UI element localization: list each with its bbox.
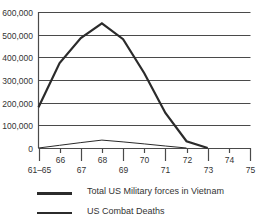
x-tick-label: 70 — [140, 155, 150, 165]
legend-label: US Combat Deaths — [87, 206, 165, 216]
y-tick-label: 600,000 — [2, 8, 33, 18]
legend-item-combat-deaths: US Combat Deaths — [37, 206, 256, 220]
thin-line-swatch-icon — [37, 212, 72, 214]
y-tick-label: 100,000 — [2, 121, 33, 131]
x-tick-label: 74 — [225, 155, 235, 165]
x-tick-label: 72 — [183, 155, 193, 165]
y-axis: 0100,000200,000300,000400,000500,000600,… — [2, 8, 38, 154]
x-tick-label: 61–65 — [28, 165, 52, 175]
x-tick-label: 67 — [77, 165, 87, 175]
y-tick-label: 500,000 — [2, 31, 33, 41]
x-tick-label: 75 — [246, 165, 256, 175]
gridlines — [39, 13, 251, 149]
y-tick-label: 0 — [28, 144, 33, 154]
total-forces-line — [39, 23, 208, 148]
x-tick-label: 71 — [161, 165, 171, 175]
y-tick-label: 400,000 — [2, 53, 33, 63]
y-tick-label: 300,000 — [2, 76, 33, 86]
x-tick-label: 68 — [98, 155, 108, 165]
x-axis: 61–6566676869707172737475 — [28, 148, 256, 175]
line-chart: 0100,000200,000300,000400,000500,000600,… — [0, 0, 256, 180]
legend-label: Total US Military forces in Vietnam — [87, 186, 224, 196]
y-tick-label: 200,000 — [2, 99, 33, 109]
combat-deaths-line — [39, 140, 187, 148]
x-tick-label: 69 — [119, 165, 129, 175]
legend: Total US Military forces in Vietnam US C… — [0, 180, 256, 220]
x-tick-label: 73 — [204, 165, 214, 175]
data-series — [39, 23, 208, 148]
legend-item-total-forces: Total US Military forces in Vietnam — [37, 186, 256, 200]
thick-line-swatch-icon — [37, 192, 72, 195]
x-tick-label: 66 — [56, 155, 66, 165]
